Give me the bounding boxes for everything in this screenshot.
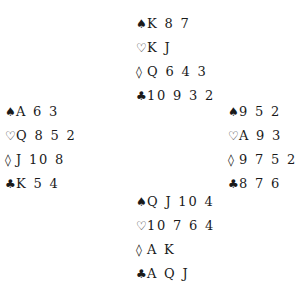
north-diamonds: ◊Q 6 4 3 xyxy=(136,60,215,84)
west-clubs: ♣K 5 4 xyxy=(5,172,76,196)
heart-icon: ♡ xyxy=(136,214,147,238)
north-spades: ♠K 8 7 xyxy=(136,12,215,36)
west-hand: ♠A 6 3 ♡Q 8 5 2 ◊J 10 8 ♣K 5 4 xyxy=(5,100,76,196)
club-icon: ♣ xyxy=(228,172,239,196)
spade-icon: ♠ xyxy=(5,100,16,124)
spade-icon: ♠ xyxy=(136,12,147,36)
club-icon: ♣ xyxy=(5,172,16,196)
south-clubs: ♣A Q J xyxy=(136,262,215,286)
north-clubs: ♣10 9 3 2 xyxy=(136,84,215,108)
east-clubs: ♣8 7 6 xyxy=(228,172,297,196)
north-hearts: ♡K J xyxy=(136,36,215,60)
west-diamonds: ◊J 10 8 xyxy=(5,148,76,172)
heart-icon: ♡ xyxy=(228,124,239,148)
east-hand: ♠9 5 2 ♡A 9 3 ◊9 7 5 2 ♣8 7 6 xyxy=(228,100,297,196)
east-spades: ♠9 5 2 xyxy=(228,100,297,124)
diamond-icon: ◊ xyxy=(5,148,16,172)
diamond-icon: ◊ xyxy=(228,148,239,172)
heart-icon: ♡ xyxy=(5,124,16,148)
diamond-icon: ◊ xyxy=(136,60,147,84)
diamond-icon: ◊ xyxy=(136,238,147,262)
south-hand: ♠Q J 10 4 ♡10 7 6 4 ◊A K ♣A Q J xyxy=(136,190,215,286)
east-diamonds: ◊9 7 5 2 xyxy=(228,148,297,172)
spade-icon: ♠ xyxy=(228,100,239,124)
west-spades: ♠A 6 3 xyxy=(5,100,76,124)
south-spades: ♠Q J 10 4 xyxy=(136,190,215,214)
west-hearts: ♡Q 8 5 2 xyxy=(5,124,76,148)
east-hearts: ♡A 9 3 xyxy=(228,124,297,148)
club-icon: ♣ xyxy=(136,84,147,108)
spade-icon: ♠ xyxy=(136,190,147,214)
south-hearts: ♡10 7 6 4 xyxy=(136,214,215,238)
club-icon: ♣ xyxy=(136,262,147,286)
north-hand: ♠K 8 7 ♡K J ◊Q 6 4 3 ♣10 9 3 2 xyxy=(136,12,215,108)
heart-icon: ♡ xyxy=(136,36,147,60)
south-diamonds: ◊A K xyxy=(136,238,215,262)
